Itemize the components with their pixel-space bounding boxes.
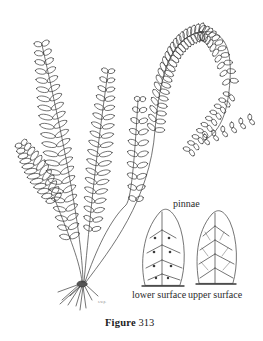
leaflet (94, 197, 106, 204)
leaflet (65, 202, 79, 213)
leaflet (59, 233, 70, 240)
leaflet (53, 205, 67, 213)
leaflet (62, 183, 77, 194)
leaflet (215, 112, 223, 120)
leaflet (51, 110, 66, 121)
leaflet (188, 149, 196, 157)
leaflet (107, 68, 115, 74)
leaflet (88, 139, 102, 149)
leaflet (105, 95, 116, 102)
leaflet (164, 69, 175, 78)
leaflet (196, 128, 204, 134)
leaflet (34, 59, 45, 66)
leaflet (177, 43, 187, 53)
leaflet (230, 122, 234, 128)
leaflet (159, 88, 170, 95)
pinna-lower-surface-drawing (142, 209, 184, 286)
leaflet (224, 60, 233, 65)
leaflet (34, 41, 43, 48)
leaflet (101, 132, 114, 140)
leaflet (197, 137, 205, 145)
leaflet (50, 185, 61, 196)
leaflet (103, 113, 115, 120)
leaflet (127, 138, 139, 147)
leaflet (55, 215, 68, 223)
leaflet (200, 122, 208, 128)
leaflet (85, 166, 99, 176)
leaflet (99, 150, 113, 158)
leaflet (30, 177, 44, 185)
leaflet (136, 184, 146, 192)
leaflet (97, 85, 107, 93)
leaflet (126, 160, 138, 169)
leaflet (37, 104, 51, 112)
leaflet (156, 119, 166, 124)
leaflet (38, 113, 53, 121)
leaflet (42, 48, 52, 57)
leaflet (33, 182, 46, 189)
leaflet (183, 146, 191, 152)
leaflet (37, 95, 51, 103)
leaflet (209, 109, 217, 115)
frond-tip-cluster (183, 91, 256, 157)
leaflet (139, 106, 148, 113)
leaflet (155, 128, 165, 133)
leaflet (84, 176, 97, 186)
leaflet (97, 169, 111, 177)
leaflet (36, 86, 49, 94)
leaflet (224, 100, 232, 108)
leaflet (50, 101, 65, 112)
leaflet (156, 110, 166, 116)
leaflet (102, 122, 115, 130)
label-pinnae: pinnae (173, 199, 200, 209)
leaflet (91, 225, 101, 232)
leaflet (63, 193, 77, 204)
leaflet (47, 83, 60, 93)
figure-caption: Figure 313 (105, 317, 154, 328)
pinna-upper-surface-drawing (196, 211, 236, 284)
leaflet (205, 115, 213, 121)
leaflet (157, 103, 167, 109)
leaflet (170, 42, 176, 52)
leaflet (192, 134, 200, 140)
leaflet (83, 195, 95, 204)
leaflet (92, 216, 103, 223)
leaflet (53, 119, 68, 130)
leaflet (83, 224, 93, 232)
caption-word: Figure (105, 317, 136, 328)
leaflet (210, 118, 218, 126)
leaflet (223, 91, 231, 97)
leaflet (106, 77, 115, 84)
leaflet (218, 97, 226, 103)
leaflet (24, 167, 37, 175)
artist-signature: s.w.p. (98, 300, 106, 304)
leaflet (127, 149, 139, 158)
leaflet (190, 33, 199, 44)
leaflet (69, 231, 81, 241)
leaflet (66, 212, 79, 222)
leaflet (187, 140, 195, 146)
leaflet (96, 178, 109, 186)
leaflet (44, 159, 60, 167)
leaflet (219, 106, 227, 114)
leaflet (23, 142, 32, 152)
leaflet (206, 124, 214, 132)
leaflet (61, 174, 76, 185)
frond-tall (34, 39, 81, 241)
leaflet (230, 78, 239, 84)
leaflet (100, 141, 114, 149)
leaflet (37, 187, 49, 194)
leaflet (46, 74, 59, 84)
leaflet (93, 206, 105, 213)
leaflet (26, 146, 36, 157)
leaflet (40, 131, 56, 139)
frond-left (15, 138, 63, 204)
leaflet (138, 128, 149, 136)
root-cluster (58, 281, 98, 310)
leaflet (20, 138, 28, 147)
leaflet (46, 168, 61, 176)
leaflet (95, 188, 108, 196)
leaflet (41, 141, 57, 149)
leaflet (106, 86, 116, 93)
leaflet (138, 117, 148, 125)
